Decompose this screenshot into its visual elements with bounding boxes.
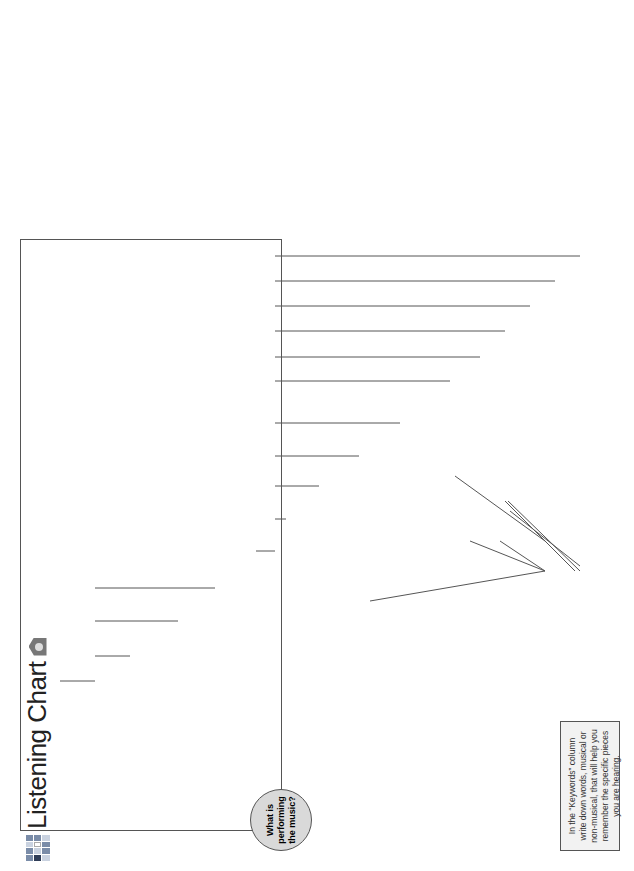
keywords-note: In the “Keywords” column write down word… bbox=[560, 721, 620, 851]
color-swatch-icon bbox=[26, 835, 50, 861]
root-question-oval: What is performing the music? bbox=[250, 789, 312, 851]
root-question: What is performing the music? bbox=[265, 790, 298, 850]
note-text: In the “Keywords” column write down word… bbox=[567, 729, 621, 842]
main-table bbox=[20, 239, 282, 831]
listening-chart-page: Listening Chart bbox=[0, 0, 634, 871]
